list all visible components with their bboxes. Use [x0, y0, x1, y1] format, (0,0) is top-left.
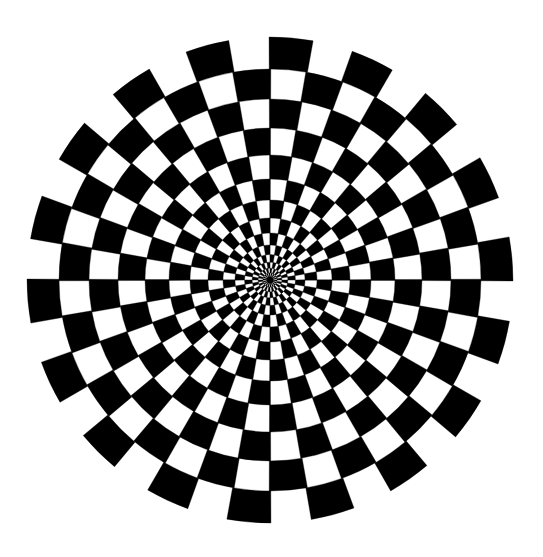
- checker-cell: [248, 379, 271, 405]
- checker-cell: [233, 69, 271, 102]
- checker-cell: [243, 128, 271, 157]
- center-point: [267, 277, 273, 283]
- checker-cell: [369, 258, 395, 281]
- checker-cell: [89, 279, 120, 312]
- checker-cell: [27, 279, 62, 323]
- checker-cell: [269, 458, 307, 491]
- illusion-figure-root: [0, 0, 543, 557]
- checker-cell: [269, 403, 297, 432]
- checker-cell: [420, 248, 451, 281]
- checker-cell: [448, 279, 481, 317]
- checker-cell: [227, 488, 271, 523]
- checker-cell: [269, 99, 302, 130]
- checker-cell: [59, 243, 92, 281]
- checker-cell: [269, 37, 313, 72]
- checker-cell: [478, 237, 513, 281]
- checker-cell: [270, 155, 293, 181]
- checker-cell: [393, 279, 422, 307]
- checker-cell: [145, 280, 171, 303]
- checker-cell: [238, 430, 271, 461]
- radial-checkerboard-illusion: [0, 0, 543, 557]
- checker-cell: [118, 253, 147, 281]
